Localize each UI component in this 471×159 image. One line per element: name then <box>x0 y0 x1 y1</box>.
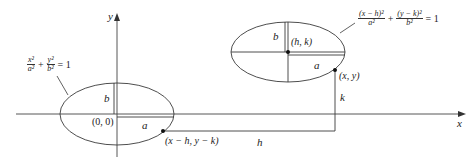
point-translated-label: (x − h, y − k) <box>165 136 218 146</box>
y-axis-label: y <box>108 11 113 22</box>
fraction-x-h: (x − h)²a² <box>358 10 385 28</box>
point-xy-label: (x, y) <box>339 71 360 81</box>
shifted-ellipse-equation: (x − h)²a² + (y − k)²b² = 1 <box>358 10 439 28</box>
fraction-y-k: (y − k)²b² <box>396 10 422 28</box>
fraction-y: y²b² <box>47 56 55 74</box>
origin-a-label: a <box>142 120 148 131</box>
x-axis-label: x <box>457 118 462 129</box>
k-offset-label: k <box>340 92 345 103</box>
axes <box>16 17 462 157</box>
translation-lines <box>163 70 335 131</box>
point-translated <box>161 129 165 133</box>
fraction-x: x²a² <box>27 56 35 74</box>
h-offset-label: h <box>257 137 263 148</box>
center-point-hk <box>286 50 290 54</box>
origin-ellipse-equation: x²a² + y²b² = 1 <box>27 56 71 74</box>
point-xy <box>333 68 337 72</box>
shifted-center-label: (h, k) <box>291 37 312 47</box>
origin-b-label: b <box>104 93 110 104</box>
shifted-b-label: b <box>273 31 279 42</box>
shifted-a-label: a <box>314 60 320 71</box>
origin-center-label: (0, 0) <box>92 117 114 127</box>
y-axis-arrow-icon <box>114 13 120 21</box>
